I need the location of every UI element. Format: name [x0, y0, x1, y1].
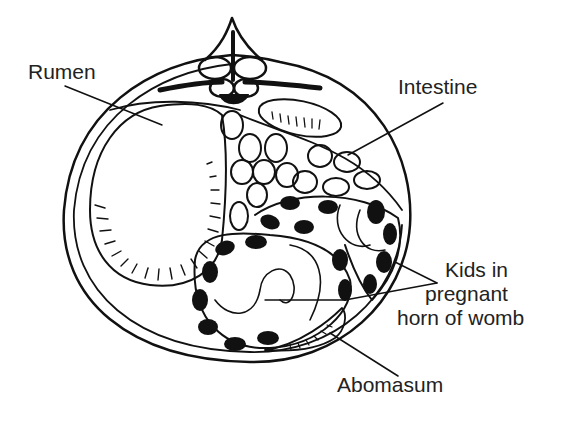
womb-horn-upper — [255, 196, 400, 300]
label-kids-line3: horn of womb — [397, 306, 524, 330]
abomasum-upper — [255, 93, 344, 144]
kids-leader-upper — [395, 262, 437, 283]
label-abomasum: Abomasum — [337, 373, 443, 397]
label-kids-in-womb: Kids in pregnant horn of womb — [435, 258, 524, 330]
label-intestine: Intestine — [398, 75, 477, 99]
label-kids-line1: Kids in — [435, 258, 524, 282]
label-rumen: Rumen — [28, 60, 96, 84]
abomasum-leader — [330, 333, 398, 376]
womb-horn-lower — [192, 233, 352, 351]
label-kids-line2: pregnant — [425, 282, 524, 306]
body-wall — [64, 18, 411, 362]
rumen — [90, 102, 240, 286]
